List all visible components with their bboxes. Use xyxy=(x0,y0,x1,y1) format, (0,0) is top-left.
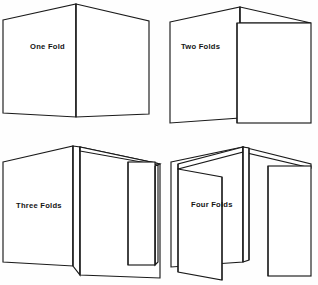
two-folds-left-panel xyxy=(170,7,240,123)
three-folds-rear-panel xyxy=(128,162,155,265)
folding-diagram-canvas: One Fold Two Folds Three Folds xyxy=(0,0,318,285)
four-folds-center-spine-panel xyxy=(243,147,249,262)
figure-two-folds: Two Folds xyxy=(170,7,311,123)
four-folds-inner-left-panel xyxy=(178,169,222,280)
figure-three-folds: Three Folds xyxy=(3,146,160,278)
two-folds-top-wedge xyxy=(240,7,311,23)
one-fold-right-panel xyxy=(76,4,149,117)
four-folds-front-right-panel xyxy=(268,166,311,276)
two-folds-caption: Two Folds xyxy=(181,42,220,51)
folding-diagram-sheet: One Fold Two Folds Three Folds xyxy=(0,0,318,285)
one-fold-caption: One Fold xyxy=(30,42,65,51)
figure-one-fold: One Fold xyxy=(3,4,149,117)
figure-four-folds: Four Folds xyxy=(171,147,311,280)
two-folds-front-panel xyxy=(237,23,311,123)
three-folds-second-panel xyxy=(73,146,80,275)
four-folds-caption: Four Folds xyxy=(191,200,233,209)
three-folds-caption: Three Folds xyxy=(16,201,62,210)
four-folds-top-right-wedge xyxy=(243,147,311,168)
one-fold-left-panel xyxy=(3,4,76,117)
